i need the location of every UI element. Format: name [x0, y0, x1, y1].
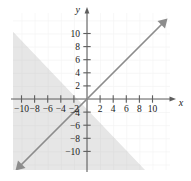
x-tick-label: 2 — [98, 104, 103, 114]
x-tick-label: −8 — [30, 104, 40, 114]
y-tick-label: 4 — [75, 68, 80, 78]
y-axis-arrow — [85, 7, 90, 14]
x-tick-label: 6 — [124, 104, 129, 114]
y-tick-label: −10 — [65, 147, 80, 157]
y-tick-label: −4 — [70, 108, 80, 118]
y-axis-label: y — [75, 4, 81, 15]
y-tick-label: 6 — [75, 55, 80, 65]
coordinate-graph-figure: −10 −8 −6 −4 −2 2 4 6 8 10 10 8 6 4 2 −4… — [0, 0, 191, 181]
x-tick-label: −4 — [56, 104, 66, 114]
x-tick-label: 10 — [148, 104, 158, 114]
x-tick-label: 8 — [137, 104, 142, 114]
y-tick-label: 10 — [71, 29, 81, 39]
y-tick-label: −8 — [70, 134, 80, 144]
y-tick-label: 8 — [75, 42, 80, 52]
x-tick-label: −10 — [14, 104, 29, 114]
y-tick-label: −6 — [70, 121, 80, 131]
x-axis-arrow — [170, 97, 177, 102]
x-axis-label: x — [178, 97, 184, 108]
y-tick-label: 2 — [75, 81, 80, 91]
graph-svg: −10 −8 −6 −4 −2 2 4 6 8 10 10 8 6 4 2 −4… — [0, 0, 191, 181]
x-tick-label: 4 — [111, 104, 116, 114]
x-tick-label: −6 — [43, 104, 53, 114]
